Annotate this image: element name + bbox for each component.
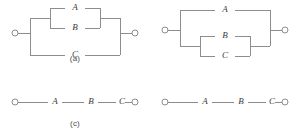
terminal-right-a (132, 30, 138, 36)
component-label-d3: C (269, 96, 276, 106)
terminal-right-b (282, 27, 288, 33)
diagram-panel-b: A B C (b) (150, 0, 300, 65)
circuit-diagram-d: A B C (150, 66, 300, 131)
component-label-a2: B (72, 22, 78, 32)
caption-c: (c) (0, 119, 150, 128)
terminal-right-d (282, 99, 288, 105)
caption-a: (a) (0, 54, 150, 63)
terminal-left-b (162, 27, 168, 33)
diagram-panel-a: A B C (a) (0, 0, 150, 65)
diagram-panel-d: A B C (d) (150, 66, 300, 131)
component-label-a1: A (71, 2, 78, 12)
caption-b: (b) (300, 54, 301, 63)
terminal-left-d (162, 99, 168, 105)
component-label-d2: B (238, 96, 244, 106)
component-label-c1: A (51, 96, 58, 106)
component-label-b2: B (222, 30, 228, 40)
circuit-diagram-b: A B C (150, 0, 300, 65)
component-label-c3: C (119, 96, 126, 106)
caption-d: (d) (300, 119, 301, 128)
figure-sheet: A B C (a) (0, 0, 301, 131)
diagram-panel-c: A B C (c) (0, 66, 150, 131)
component-label-d1: A (201, 96, 208, 106)
terminal-right-c (132, 99, 138, 105)
terminal-left-c (12, 99, 18, 105)
terminal-left-a (12, 30, 18, 36)
component-label-b1: A (221, 4, 228, 14)
component-label-b3: C (222, 50, 229, 60)
component-label-c2: B (88, 96, 94, 106)
